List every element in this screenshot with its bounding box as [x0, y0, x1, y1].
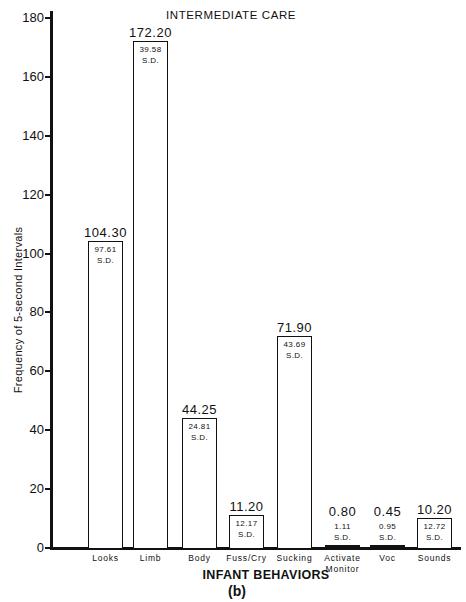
- y-tick-label: 60: [4, 363, 44, 378]
- sd-abbrev: S.D.: [229, 529, 264, 540]
- sd-value: 24.81: [182, 421, 217, 432]
- bar: [370, 545, 405, 548]
- y-axis-title: Frequency of 5-second Intervals: [12, 215, 24, 405]
- y-tick: [45, 547, 51, 549]
- bar-sd-label: 12.17S.D.: [229, 518, 264, 540]
- bar-value-label: 11.20: [219, 499, 274, 514]
- sd-value: 43.69: [277, 339, 312, 350]
- sd-abbrev: S.D.: [88, 255, 123, 266]
- sd-abbrev: S.D.: [133, 55, 168, 66]
- sd-abbrev: S.D.: [370, 532, 405, 543]
- y-tick: [45, 76, 51, 78]
- y-tick: [45, 311, 51, 313]
- sd-value: 12.17: [229, 518, 264, 529]
- y-tick: [45, 370, 51, 372]
- y-tick: [45, 17, 51, 19]
- sd-value: 1.11: [325, 521, 360, 532]
- y-axis: [50, 11, 53, 549]
- y-tick-label: 80: [4, 304, 44, 319]
- y-tick-label: 40: [4, 422, 44, 437]
- y-tick-label: 140: [4, 128, 44, 143]
- y-tick: [45, 253, 51, 255]
- bar: [277, 336, 312, 548]
- y-tick: [45, 429, 51, 431]
- sd-value: 39.58: [133, 44, 168, 55]
- y-tick: [45, 135, 51, 137]
- sd-abbrev: S.D.: [182, 432, 217, 443]
- sd-value: 0.95: [370, 521, 405, 532]
- sd-abbrev: S.D.: [325, 532, 360, 543]
- bar-value-label: 71.90: [267, 320, 322, 335]
- bar-sd-label: 12.72S.D.: [417, 521, 452, 543]
- sd-abbrev: S.D.: [277, 350, 312, 361]
- bar-sd-label: 39.58S.D.: [133, 44, 168, 66]
- sd-value: 12.72: [417, 521, 452, 532]
- bar-sd-label: 0.95S.D.: [370, 521, 405, 543]
- y-tick-label: 20: [4, 481, 44, 496]
- x-category-label: Sounds: [405, 553, 464, 564]
- bar: [325, 545, 360, 548]
- y-tick: [45, 488, 51, 490]
- bar-sd-label: 43.69S.D.: [277, 339, 312, 361]
- y-tick-label: 120: [4, 187, 44, 202]
- sd-abbrev: S.D.: [417, 532, 452, 543]
- y-tick-label: 160: [4, 69, 44, 84]
- bar-value-label: 104.30: [78, 225, 133, 240]
- panel-label: (b): [222, 583, 252, 599]
- bar-sd-label: 24.81S.D.: [182, 421, 217, 443]
- y-tick-label: 180: [4, 10, 44, 25]
- bar-value-label: 10.20: [407, 502, 462, 517]
- bar-sd-label: 1.11S.D.: [325, 521, 360, 543]
- x-axis-title: INFANT BEHAVIORS: [166, 568, 366, 582]
- y-tick-label: 100: [4, 246, 44, 261]
- bar-sd-label: 97.61S.D.: [88, 244, 123, 266]
- bar-value-label: 44.25: [172, 402, 227, 417]
- chart-title: INTERMEDIATE CARE: [166, 9, 296, 21]
- bar: [88, 241, 123, 548]
- bar: [133, 41, 168, 548]
- y-tick: [45, 194, 51, 196]
- y-tick-label: 0: [4, 540, 44, 555]
- sd-value: 97.61: [88, 244, 123, 255]
- bar-value-label: 172.20: [123, 25, 178, 40]
